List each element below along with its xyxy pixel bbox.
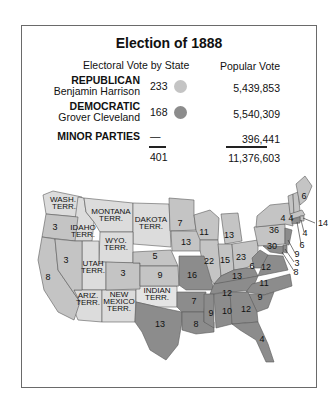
svg-text:TERR.: TERR. bbox=[139, 222, 163, 231]
svg-text:8: 8 bbox=[45, 272, 50, 282]
svg-text:6: 6 bbox=[249, 261, 254, 271]
svg-text:6: 6 bbox=[301, 191, 306, 201]
svg-text:3: 3 bbox=[63, 255, 68, 265]
svg-text:TERR.: TERR. bbox=[107, 304, 131, 313]
us-electoral-map: WASH.TERR. IDAHOTERR. MONTANATERR. DAKOT… bbox=[0, 0, 334, 410]
svg-text:16: 16 bbox=[187, 270, 197, 280]
texas bbox=[135, 302, 182, 360]
svg-text:4: 4 bbox=[280, 213, 285, 223]
svg-text:3: 3 bbox=[52, 222, 57, 232]
svg-text:15: 15 bbox=[220, 255, 230, 265]
svg-text:11: 11 bbox=[199, 227, 208, 237]
svg-text:13: 13 bbox=[232, 271, 242, 281]
svg-text:TERR.: TERR. bbox=[76, 298, 100, 307]
svg-text:13: 13 bbox=[155, 319, 165, 329]
new-york bbox=[256, 203, 293, 227]
svg-text:12: 12 bbox=[241, 304, 251, 314]
svg-text:TERR.: TERR. bbox=[104, 243, 128, 252]
svg-text:9: 9 bbox=[257, 292, 262, 302]
svg-text:10: 10 bbox=[222, 306, 232, 316]
svg-text:9: 9 bbox=[208, 308, 213, 318]
svg-text:3: 3 bbox=[120, 268, 125, 278]
svg-text:7: 7 bbox=[191, 296, 196, 306]
svg-text:11: 11 bbox=[259, 278, 268, 288]
florida bbox=[232, 322, 274, 362]
svg-text:30: 30 bbox=[267, 241, 277, 251]
svg-text:8: 8 bbox=[293, 267, 298, 277]
svg-text:14: 14 bbox=[318, 218, 328, 228]
svg-text:12: 12 bbox=[222, 288, 232, 298]
svg-text:22: 22 bbox=[204, 256, 214, 266]
svg-text:5: 5 bbox=[152, 251, 157, 261]
rhode-island bbox=[300, 216, 304, 221]
svg-text:7: 7 bbox=[177, 218, 182, 228]
svg-text:23: 23 bbox=[236, 252, 246, 262]
svg-text:TERR.: TERR. bbox=[145, 293, 169, 302]
svg-text:12: 12 bbox=[261, 262, 271, 272]
svg-text:TERR.: TERR. bbox=[99, 214, 123, 223]
svg-text:TERR.: TERR. bbox=[71, 230, 95, 239]
svg-text:36: 36 bbox=[269, 225, 279, 235]
svg-text:8: 8 bbox=[193, 319, 198, 329]
new-jersey bbox=[285, 228, 292, 245]
svg-text:13: 13 bbox=[181, 237, 191, 247]
svg-text:TERR.: TERR. bbox=[52, 202, 76, 211]
svg-text:4: 4 bbox=[288, 213, 293, 223]
svg-text:TERR.: TERR. bbox=[81, 266, 105, 275]
svg-text:13: 13 bbox=[224, 230, 234, 240]
svg-text:4: 4 bbox=[259, 334, 264, 344]
svg-text:9: 9 bbox=[157, 270, 162, 280]
